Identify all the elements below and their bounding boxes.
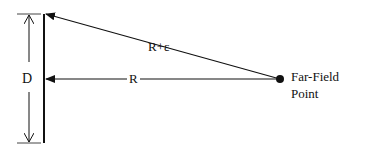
direct-distance-label: R [127, 72, 140, 86]
far-field-point-label: Far-Field Point [289, 68, 341, 102]
far-field-point-label-line2: Point [291, 85, 339, 102]
aperture-dimension-label: D [20, 72, 34, 86]
far-field-point-label-line1: Far-Field [291, 68, 339, 85]
far-field-point-dot [276, 75, 284, 83]
edge-distance-label: R+ε [146, 40, 171, 54]
